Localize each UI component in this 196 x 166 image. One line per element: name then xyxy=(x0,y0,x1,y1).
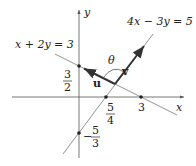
frac-5-4-den: 4 xyxy=(107,114,114,127)
x-intercept-3-label: 3 xyxy=(138,101,145,114)
line-x-plus-2y-eq-3 xyxy=(55,54,177,115)
equation-label-2: 4x − 3y = 5 xyxy=(126,15,193,28)
frac-3-2-num: 3 xyxy=(64,68,71,81)
point-x-five-quarters xyxy=(104,95,108,99)
x-axis-label: x xyxy=(176,101,183,114)
vector-v-label: v xyxy=(121,65,129,78)
frac-3-2-den: 2 xyxy=(64,81,71,94)
frac-neg-5-3-den: 3 xyxy=(92,137,99,150)
point-y-neg-five-thirds xyxy=(77,131,81,135)
equation-label-1: x + 2y = 3 xyxy=(15,38,74,51)
y-axis-label: y xyxy=(83,6,91,19)
vector-u-label: u xyxy=(93,77,101,90)
diagram-svg: y x x + 2y = 3 4x − 3y = 5 u v θ 3 2 5 4… xyxy=(0,0,196,166)
vector-v xyxy=(115,46,144,84)
frac-neg-5-3-sign: − xyxy=(83,130,92,143)
frac-5-4-num: 5 xyxy=(107,101,114,114)
diagram-canvas: y x x + 2y = 3 4x − 3y = 5 u v θ 3 2 5 4… xyxy=(0,0,196,166)
angle-theta-label: θ xyxy=(108,54,115,67)
point-x-three xyxy=(139,95,143,99)
frac-neg-5-3-num: 5 xyxy=(92,124,99,137)
point-y-three-halves xyxy=(77,64,81,68)
